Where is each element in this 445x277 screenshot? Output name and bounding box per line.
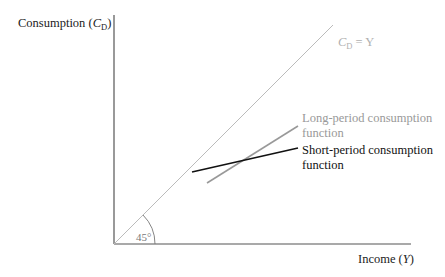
x-axis-label: Income (Y) — [358, 252, 414, 267]
short-period-label: Short-period consumptionfunction — [302, 143, 433, 173]
identity-label: CD = Y — [338, 35, 374, 54]
short-period-line — [192, 148, 298, 172]
long-period-label: Long-period consumptionfunction — [302, 111, 432, 141]
long-period-line — [207, 126, 298, 183]
identity-line — [114, 25, 333, 244]
angle-label: 45° — [136, 230, 151, 245]
y-axis-label: Consumption (CD) — [18, 16, 111, 35]
